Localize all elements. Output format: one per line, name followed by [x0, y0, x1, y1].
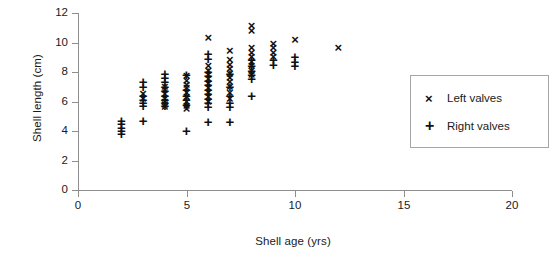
- data-point-left-valve: ×: [223, 92, 236, 105]
- data-point-left-valve: ×: [202, 77, 215, 90]
- data-point-right-valve: +: [115, 113, 128, 128]
- data-point-right-valve: +: [223, 79, 236, 94]
- y-axis-line: [78, 13, 79, 191]
- y-axis-tick: [72, 161, 78, 162]
- data-point-left-valve: ×: [158, 95, 171, 108]
- data-point-left-valve: ×: [267, 37, 280, 50]
- x-axis-tick-label: 15: [389, 199, 419, 211]
- data-point-right-valve: +: [137, 113, 150, 128]
- x-axis-tick: [295, 191, 296, 197]
- data-point-left-valve: ×: [202, 64, 215, 77]
- y-axis-tick-label: 8: [44, 66, 68, 78]
- data-point-right-valve: +: [223, 66, 236, 81]
- y-axis-tick-label: 2: [44, 155, 68, 167]
- data-point-left-valve: ×: [158, 83, 171, 96]
- data-point-right-valve: +: [115, 126, 128, 141]
- data-point-right-valve: +: [137, 74, 150, 89]
- data-point-right-valve: +: [137, 92, 150, 107]
- data-point-left-valve: ×: [180, 81, 193, 94]
- y-axis-tick-label: 10: [44, 37, 68, 49]
- data-point-right-valve: +: [202, 51, 215, 66]
- y-axis-tick-label: 4: [44, 125, 68, 137]
- y-axis-tick-label-text: 10: [46, 37, 68, 49]
- data-point-left-valve: ×: [158, 92, 171, 105]
- data-point-left-valve: ×: [158, 98, 171, 111]
- data-point-right-valve: +: [180, 97, 193, 112]
- data-point-right-valve: +: [202, 77, 215, 92]
- data-point-left-valve: ×: [267, 41, 280, 54]
- data-point-left-valve: ×: [332, 41, 345, 54]
- data-point-left-valve: ×: [223, 67, 236, 80]
- y-axis-tick: [72, 102, 78, 103]
- y-axis-tick-label-text: 8: [46, 66, 68, 78]
- y-axis-tick-label-text: 4: [46, 125, 68, 137]
- data-point-left-valve: ×: [180, 90, 193, 103]
- data-point-left-valve: ×: [158, 80, 171, 93]
- data-point-right-valve: +: [180, 123, 193, 138]
- data-point-right-valve: +: [245, 58, 258, 73]
- data-point-left-valve: ×: [245, 50, 258, 63]
- data-point-right-valve: +: [202, 46, 215, 61]
- data-point-right-valve: +: [245, 67, 258, 82]
- data-point-left-valve: ×: [202, 68, 215, 81]
- data-point-right-valve: +: [158, 95, 171, 110]
- data-point-left-valve: ×: [223, 44, 236, 57]
- data-point-right-valve: +: [137, 88, 150, 103]
- data-point-right-valve: +: [137, 95, 150, 110]
- x-axis-tick-label: 10: [280, 199, 310, 211]
- data-point-right-valve: +: [202, 91, 215, 106]
- data-point-right-valve: +: [223, 99, 236, 114]
- x-axis-tick-label: 20: [497, 199, 527, 211]
- data-point-right-valve: +: [289, 49, 302, 64]
- data-point-left-valve: ×: [267, 46, 280, 59]
- data-point-right-valve: +: [158, 66, 171, 81]
- data-point-left-valve: ×: [245, 41, 258, 54]
- data-point-left-valve: ×: [158, 100, 171, 113]
- data-point-right-valve: +: [158, 98, 171, 113]
- x-axis-tick-label: 0: [63, 199, 93, 211]
- data-point-right-valve: +: [245, 63, 258, 78]
- data-point-right-valve: +: [245, 71, 258, 86]
- data-point-left-valve: ×: [245, 64, 258, 77]
- data-point-left-valve: ×: [223, 80, 236, 93]
- data-point-left-valve: ×: [223, 86, 236, 99]
- data-point-left-valve: ×: [289, 33, 302, 46]
- data-point-right-valve: +: [289, 58, 302, 73]
- data-point-left-valve: ×: [180, 99, 193, 112]
- data-point-right-valve: +: [115, 123, 128, 138]
- data-point-left-valve: ×: [223, 71, 236, 84]
- data-point-right-valve: +: [158, 92, 171, 107]
- data-point-left-valve: ×: [137, 87, 150, 100]
- data-point-left-valve: ×: [223, 58, 236, 71]
- data-point-right-valve: +: [267, 52, 280, 67]
- data-point-left-valve: ×: [223, 75, 236, 88]
- data-point-left-valve: ×: [137, 92, 150, 105]
- data-point-right-valve: +: [158, 70, 171, 85]
- data-point-left-valve: ×: [202, 31, 215, 44]
- data-point-right-valve: +: [158, 74, 171, 89]
- data-point-left-valve: ×: [180, 95, 193, 108]
- data-point-left-valve: ×: [245, 24, 258, 37]
- data-point-right-valve: +: [115, 120, 128, 135]
- data-point-right-valve: +: [223, 114, 236, 129]
- y-axis-tick: [72, 72, 78, 73]
- data-point-right-valve: +: [202, 114, 215, 129]
- y-axis-tick-label-text: 0: [46, 184, 68, 196]
- data-point-right-valve: +: [115, 116, 128, 131]
- data-point-right-valve: +: [202, 73, 215, 88]
- data-point-left-valve: ×: [202, 95, 215, 108]
- x-axis-tick: [404, 191, 405, 197]
- plus-marker-icon: +: [425, 117, 441, 135]
- y-axis-tick-label-text: 6: [46, 96, 68, 108]
- y-axis-tick-label-text: 12: [46, 7, 68, 19]
- y-axis-tick: [72, 43, 78, 44]
- data-point-left-valve: ×: [180, 69, 193, 82]
- y-axis-tick-label: 0: [44, 184, 68, 196]
- data-point-left-valve: ×: [245, 19, 258, 32]
- data-point-left-valve: ×: [245, 59, 258, 72]
- data-point-left-valve: ×: [223, 53, 236, 66]
- legend-label-right-valves: Right valves: [447, 120, 510, 132]
- y-axis-tick-label: 6: [44, 96, 68, 108]
- data-point-left-valve: ×: [245, 55, 258, 68]
- data-point-left-valve: ×: [180, 78, 193, 91]
